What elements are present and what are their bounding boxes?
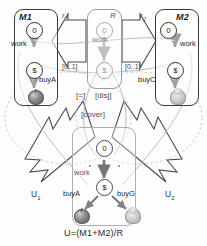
m2-state-money[interactable]: $ [167,62,184,79]
constraint-disj: [disj] [95,92,111,100]
refinement-arrow-r2 [122,14,156,68]
r-state-money[interactable]: $ [96,62,113,79]
component-r-label: R [110,11,116,20]
u-transition-buy-left-label: buyA [63,190,80,198]
relation-r1-label: r1 [62,12,68,22]
apple-icon [28,90,44,105]
plant-icon [125,209,141,224]
component-m1-label: M1 [19,12,32,22]
m1-transition-work-label: work [11,40,27,48]
m2-transition-work-label: work [180,40,196,48]
relation-r2-subscript: 2 [143,16,146,22]
merge-u2-subscript: 2 [171,195,174,201]
merge-u1-subscript: 1 [37,195,40,201]
u-transition-work-label: work [74,169,90,177]
diagram-canvas: M1 0 work $ buyA R 0 work $ M2 0 work $ … [0,0,207,246]
constraint-equal: [=] [76,92,85,100]
constraint-cover: [cover] [81,111,105,119]
m2-transition-buy-label: buyC [138,76,156,84]
m1-transition-buy-label: buyA [39,76,56,84]
m2-state-initial[interactable]: 0 [160,22,177,39]
relation-r1-subscript: 1 [65,16,68,22]
relation-r2-label: r2 [140,12,146,22]
m1-state-initial[interactable]: 0 [26,22,43,39]
u-state-money[interactable]: $ [96,179,113,196]
merge-label-u2: U2 [165,190,174,201]
apple-icon [74,209,90,224]
multiplicity-left: [0..1] [62,63,78,70]
r-transition-work-label: work [92,36,108,44]
merge-label-u1: U1 [31,190,40,201]
result-equation: U=(M1+M2)/R [64,229,123,238]
component-m2-label: M2 [176,12,189,22]
plant-icon [170,90,186,105]
u-transition-buy-right-label: buyG [117,190,135,198]
multiplicity-right: [0..1] [125,63,141,70]
u-state-initial[interactable]: 0 [96,140,113,157]
